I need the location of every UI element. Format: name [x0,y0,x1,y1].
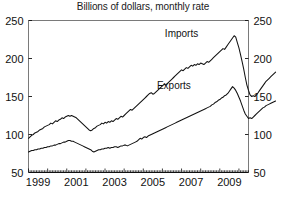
x-axis-label: 2001 [64,176,88,188]
y-axis-label-right: 100 [254,129,272,141]
y-axis-label-left: 150 [5,91,23,103]
x-axis-label: 1999 [26,176,50,188]
series-line-imports [29,36,276,139]
plot-frame [29,21,249,173]
series-annotation-exports: Exports [157,80,191,91]
y-axis-label-right: 50 [254,167,266,179]
x-axis-label: 2005 [141,176,165,188]
y-axis-label-right: 250 [254,15,272,27]
series-annotation-imports: Imports [165,28,198,39]
y-axis-label-right: 150 [254,91,272,103]
y-axis-label-left: 100 [5,129,23,141]
chart-plot-area: 5050100100150150200200250250199920012003… [0,0,286,198]
x-axis-label: 2007 [179,176,203,188]
x-axis-label: 2003 [102,176,126,188]
x-axis-label: 2009 [217,176,241,188]
y-axis-label-left: 250 [5,15,23,27]
chart-figure: Billions of dollars, monthly rate 505010… [0,0,286,198]
y-axis-label-left: 200 [5,53,23,65]
y-axis-label-left: 50 [11,167,23,179]
series-line-exports [29,87,276,152]
y-axis-label-right: 200 [254,53,272,65]
